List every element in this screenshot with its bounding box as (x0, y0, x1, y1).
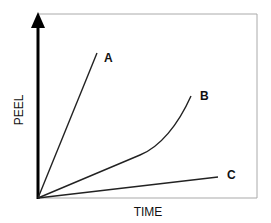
x-axis-label: TIME (134, 205, 163, 219)
curve-b-label: B (200, 89, 209, 103)
curve-a-label: A (104, 51, 113, 65)
curve-c-label: C (227, 168, 236, 182)
peel-time-diagram: A B C TIME PEEL (0, 0, 271, 223)
curve-c (38, 177, 218, 198)
y-axis-label: PEEL (12, 94, 26, 125)
